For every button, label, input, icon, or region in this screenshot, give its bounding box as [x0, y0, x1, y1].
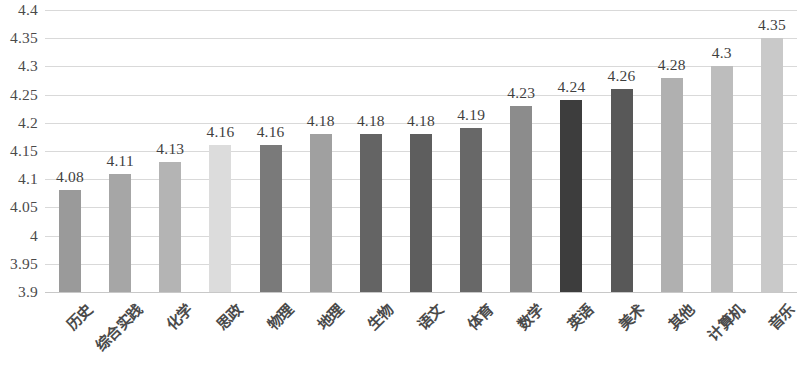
x-axis-tick-label: 物理	[261, 298, 297, 334]
x-axis-tick-label: 体育	[462, 298, 498, 334]
bar-value-label: 4.19	[457, 106, 485, 124]
bar	[510, 106, 532, 292]
bar	[460, 128, 482, 292]
bar	[260, 145, 282, 292]
y-axis-tick-label: 4.25	[10, 86, 38, 104]
bar-chart: 4.44.354.34.254.24.154.14.0543.953.9 4.0…	[0, 0, 799, 367]
y-axis-tick-label: 4.2	[18, 114, 38, 132]
bar	[560, 100, 582, 292]
y-axis: 4.44.354.34.254.24.154.14.0543.953.9	[0, 0, 42, 300]
x-axis-tick-label: 地理	[312, 298, 348, 334]
bar	[109, 174, 131, 292]
bar	[310, 134, 332, 292]
bar-value-label: 4.18	[407, 112, 435, 130]
x-axis-tick-label: 生物	[362, 298, 398, 334]
bar	[360, 134, 382, 292]
bar-value-label: 4.28	[658, 56, 686, 74]
bar-value-label: 4.16	[257, 123, 285, 141]
x-axis-tick-label: 数学	[512, 298, 548, 334]
bar-value-label: 4.35	[758, 16, 786, 34]
bar-value-label: 4.24	[557, 78, 585, 96]
bar-value-label: 4.18	[307, 112, 335, 130]
bar-value-label: 4.3	[712, 44, 732, 62]
x-axis-tick-label: 化学	[161, 298, 197, 334]
bar-value-label: 4.23	[507, 84, 535, 102]
y-axis-tick-label: 4.05	[10, 198, 38, 216]
bar	[711, 66, 733, 292]
bar	[611, 89, 633, 292]
x-axis-tick-label: 英语	[562, 298, 598, 334]
x-axis-tick-label: 音乐	[763, 298, 799, 334]
x-axis-tick-label: 语文	[412, 298, 448, 334]
bar-value-label: 4.11	[107, 152, 134, 170]
x-axis-tick-label: 美术	[612, 298, 648, 334]
bar	[59, 190, 81, 292]
bars-layer: 4.084.114.134.164.164.184.184.184.194.23…	[45, 10, 797, 292]
bar-value-label: 4.18	[357, 112, 385, 130]
bar	[761, 38, 783, 292]
y-axis-tick-label: 4.1	[18, 170, 38, 188]
bar-value-label: 4.26	[608, 67, 636, 85]
x-axis-tick-label: 思政	[211, 298, 247, 334]
bar	[410, 134, 432, 292]
bar	[159, 162, 181, 292]
y-axis-tick-label: 4.15	[10, 142, 38, 160]
y-axis-tick-label: 3.95	[10, 255, 38, 273]
y-axis-tick-label: 3.9	[18, 283, 38, 301]
bar	[661, 78, 683, 292]
x-axis-tick-label: 计算机	[702, 298, 749, 345]
plot-area: 4.084.114.134.164.164.184.184.184.194.23…	[45, 10, 797, 292]
bar-value-label: 4.16	[206, 123, 234, 141]
y-axis-tick-label: 4.35	[10, 29, 38, 47]
y-axis-tick-label: 4	[30, 227, 38, 245]
y-axis-tick-label: 4.3	[18, 57, 38, 75]
x-axis-tick-label: 历史	[61, 298, 97, 334]
x-axis: 历史综合实践化学思政物理地理生物语文体育数学英语美术其他计算机音乐	[45, 292, 797, 367]
y-axis-tick-label: 4.4	[18, 1, 38, 19]
bar	[209, 145, 231, 292]
bar-value-label: 4.13	[156, 140, 184, 158]
x-axis-tick-label: 其他	[662, 298, 698, 334]
x-axis-tick-label: 综合实践	[90, 298, 147, 355]
bar-value-label: 4.08	[56, 168, 84, 186]
